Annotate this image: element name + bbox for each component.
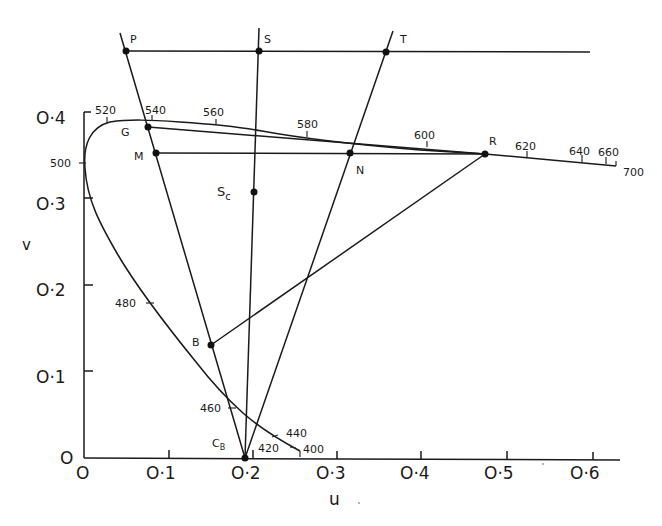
label-T: T [399,33,407,46]
x-tick-label: O·3 [316,463,346,483]
y-tick-label: O·4 [36,108,66,128]
point-Sc [251,189,258,196]
wl-600: 600 [414,129,435,142]
label-CB-sub: B [220,443,226,452]
x-tick-label: O·5 [484,463,514,483]
label-M: M [134,150,144,163]
line-M-R [156,153,485,154]
label-Sc-sub: c [225,191,231,202]
x-tick-label: O·4 [400,463,430,483]
label-Sc-main: S [217,184,225,199]
wl-400: 400 [303,443,324,456]
x-axis [84,458,620,460]
point-N [347,150,354,157]
point-B [208,342,215,349]
wl-700: 700 [623,166,644,179]
chromaticity-diagram: O·4 O·3 O·2 O·1 O O O·1 O·2 O·3 O·4 O·5 … [0,0,662,526]
x-tick-labels: O O·1 O·2 O·3 O·4 O·5 O·6 [76,463,600,483]
wl-560: 560 [203,106,224,119]
label-S: S [264,33,271,46]
point-P [123,48,130,55]
label-CB: CB [212,437,225,452]
line-T-CB [245,31,393,458]
axes [84,112,620,460]
label-G: G [121,126,130,139]
wl-440: 440 [286,427,307,440]
label-R: R [489,135,497,148]
point-R [482,151,489,158]
x-axis-label: u [329,489,340,509]
stray-mark [542,463,544,465]
line-P-CB [120,33,245,458]
y-tick-label: O·1 [36,367,66,387]
point-G [145,124,152,131]
spectrum-locus [85,120,616,451]
wl-660: 660 [598,146,619,159]
tick-420 [290,447,296,448]
x-tick-label: O [76,463,89,483]
wl-520: 520 [95,104,116,117]
wl-500: 500 [50,157,71,170]
x-tick-label: O·6 [570,463,600,483]
construction-lines [120,28,590,458]
wl-620: 620 [515,140,536,153]
wl-540: 540 [145,104,166,117]
label-B: B [192,336,200,349]
x-tick-label: O·1 [146,463,176,483]
y-tick-label: O·3 [36,194,66,214]
wl-480: 480 [115,297,136,310]
stray-mark [358,502,360,504]
point-S [256,48,263,55]
wl-580: 580 [297,118,318,131]
x-tick-label: O·2 [231,463,261,483]
point-CB [242,455,249,462]
label-Sc: Sc [217,184,231,202]
wl-640: 640 [569,145,590,158]
label-P: P [130,33,137,46]
y-axis-label: v [22,236,31,254]
point-M [153,150,160,157]
line-top-horizontal [126,51,590,52]
point-T [383,49,390,56]
points [123,48,489,462]
y-tick-label: O [60,448,73,468]
line-S-CB [245,28,259,458]
point-labels: P S T G M N R Sc B CB [121,33,497,452]
label-N: N [356,164,364,177]
wl-460: 460 [200,402,221,415]
y-tick-label: O·2 [36,280,66,300]
wl-420: 420 [258,442,279,455]
